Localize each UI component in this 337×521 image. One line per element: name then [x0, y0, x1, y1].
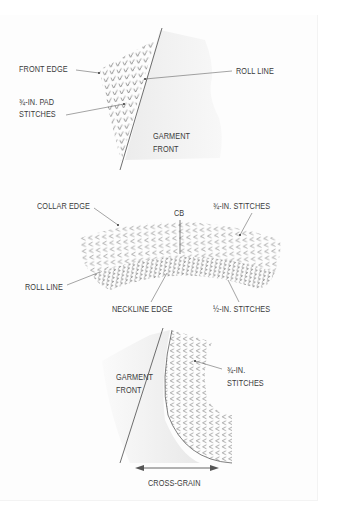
label-cb: CB [174, 207, 184, 220]
pad-stitching-illustration [0, 0, 337, 521]
label-neckline-edge: NECKLINE EDGE [112, 303, 172, 316]
label-garment-front-lower-2: FRONT [116, 384, 142, 397]
collar-diagram [67, 208, 280, 302]
label-pad-stitches-2: STITCHES [19, 108, 56, 121]
label-three-quarter-stitches: ¾-IN. STITCHES [213, 200, 270, 213]
label-chest-stitches-1: ¾-IN. [227, 364, 245, 377]
collar-edge-leader [94, 208, 118, 225]
label-collar-edge: COLLAR EDGE [37, 200, 90, 213]
label-roll-line: ROLL LINE [236, 65, 274, 78]
label-chest-stitches-2: STITCHES [227, 377, 264, 390]
chest-diagram [102, 328, 232, 471]
label-garment-front-1: GARMENT [153, 130, 190, 143]
label-pad-stitches-1: ¾-IN. PAD [19, 96, 54, 109]
label-garment-front-2: FRONT [153, 143, 179, 156]
lapel-diagram [66, 28, 232, 170]
half-stitches-leader [228, 280, 239, 302]
label-half-stitches: ½-IN. STITCHES [213, 303, 270, 316]
label-garment-front-lower-1: GARMENT [116, 371, 153, 384]
label-cross-grain: CROSS-GRAIN [148, 477, 201, 490]
label-front-edge: FRONT EDGE [19, 63, 68, 76]
label-roll-line-collar: ROLL LINE [25, 281, 63, 294]
cross-grain-arrow-icon [135, 465, 219, 471]
front-edge-leader [76, 70, 99, 73]
